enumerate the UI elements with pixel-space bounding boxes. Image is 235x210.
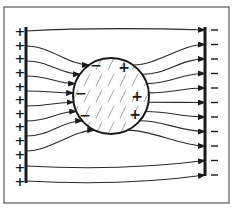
hatch-stroke [72, 26, 78, 38]
positive-plate-charges: ++++++++++++ [15, 24, 26, 189]
hatch-stroke [48, 154, 54, 166]
hatch-stroke [180, 106, 186, 118]
hatch-stroke [156, 90, 162, 102]
field-line [26, 102, 74, 106]
hatch-stroke [132, 138, 138, 150]
hatch-stroke [96, 42, 102, 54]
hatch-stroke [120, 26, 126, 38]
field-line [146, 112, 205, 118]
hatch-stroke [156, 42, 162, 54]
field-line [149, 88, 205, 93]
hatch-stroke [144, 154, 150, 166]
hatch-stroke [120, 138, 126, 150]
hatch-stroke [48, 58, 54, 70]
hatch-stroke [60, 58, 66, 70]
hatch-stroke [72, 42, 78, 54]
hatch-stroke [144, 26, 150, 38]
hatch-stroke [144, 138, 150, 150]
hatch-stroke [108, 138, 114, 150]
hatch-stroke [36, 122, 42, 134]
hatch-stroke [120, 154, 126, 166]
plus-charge: + [15, 174, 26, 189]
hatch-stroke [48, 122, 54, 134]
hatch-stroke [108, 26, 114, 38]
hatch-stroke [36, 58, 42, 70]
hatch-stroke [36, 106, 42, 118]
hatch-stroke [180, 90, 186, 102]
field-line [133, 45, 205, 66]
hatch-stroke [96, 138, 102, 150]
field-line [147, 74, 205, 84]
hatch-stroke [156, 154, 162, 166]
field-line [26, 130, 94, 151]
hatch-stroke [84, 42, 90, 54]
field-line [26, 91, 73, 93]
hatch-stroke [180, 154, 186, 166]
induced-minus-charge: − [90, 57, 102, 73]
hatch-stroke [36, 26, 42, 38]
negative-plate-charges [211, 30, 218, 175]
hatch-stroke [180, 26, 186, 38]
induced-plus-charge: + [118, 59, 130, 75]
field-line [140, 121, 205, 132]
hatch-stroke [72, 154, 78, 166]
field-line [128, 130, 205, 146]
hatch-stroke [180, 138, 186, 150]
hatch-stroke [60, 74, 66, 86]
field-line [26, 112, 76, 122]
hatch-stroke [48, 26, 54, 38]
hatch-stroke [60, 42, 66, 54]
induced-minus-charge: − [75, 85, 87, 101]
hatch-stroke [84, 26, 90, 38]
conducting-sphere [36, 26, 186, 166]
hatch-stroke [108, 42, 114, 54]
hatch-stroke [168, 106, 174, 118]
hatch-stroke [84, 138, 90, 150]
hatch-stroke [168, 26, 174, 38]
field-line [26, 121, 82, 136]
hatch-stroke [156, 138, 162, 150]
hatch-stroke [132, 26, 138, 38]
field-line [26, 175, 205, 183]
hatch-stroke [96, 154, 102, 166]
hatch-stroke [72, 138, 78, 150]
hatch-stroke [156, 74, 162, 86]
hatch-stroke [60, 106, 66, 118]
field-line [26, 29, 205, 31]
hatch-stroke [156, 26, 162, 38]
hatch-stroke [144, 42, 150, 54]
hatch-stroke [36, 154, 42, 166]
field-line [26, 161, 205, 168]
hatch-stroke [36, 74, 42, 86]
hatch-stroke [96, 26, 102, 38]
induced-minus-charge: − [79, 107, 91, 123]
hatch-stroke [60, 26, 66, 38]
hatch-stroke [72, 122, 78, 134]
hatch-stroke [132, 154, 138, 166]
hatch-stroke [132, 42, 138, 54]
sphere-hatching [36, 26, 186, 166]
hatch-stroke [120, 42, 126, 54]
hatch-stroke [168, 42, 174, 54]
sphere-in-field-diagram: ++++++++++++ −−−+++ [0, 0, 235, 210]
hatch-stroke [108, 154, 114, 166]
field-line [26, 61, 80, 74]
induced-plus-charge: + [131, 88, 143, 104]
field-line [26, 76, 75, 84]
hatch-stroke [84, 154, 90, 166]
induced-plus-charge: + [129, 106, 141, 122]
hatch-stroke [60, 90, 66, 102]
hatch-stroke [60, 122, 66, 134]
hatch-stroke [168, 122, 174, 134]
hatch-stroke [72, 58, 78, 70]
hatch-stroke [60, 154, 66, 166]
